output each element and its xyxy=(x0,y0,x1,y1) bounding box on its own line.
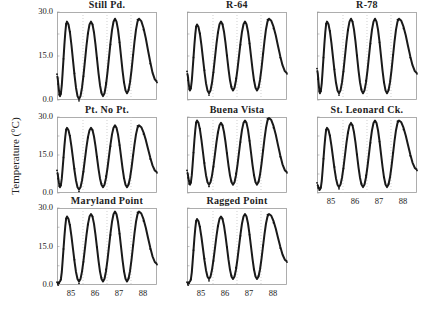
panel-title: R-64 xyxy=(187,0,287,10)
panel-title: Ragged Point xyxy=(187,195,287,206)
y-axis-label: Temperature (°C) xyxy=(9,101,21,211)
y-tick-label: 15.0 xyxy=(25,241,53,251)
y-tick-label: 0.0 xyxy=(25,279,53,289)
panel-title: Buena Vista xyxy=(187,104,287,115)
x-tick-label: 88 xyxy=(263,288,283,298)
panel-title: St. Leonard Ck. xyxy=(317,104,417,115)
x-tick-label: 86 xyxy=(345,196,365,206)
x-tick-label: 88 xyxy=(393,196,413,206)
temperature-plot xyxy=(57,208,157,285)
temperature-plot xyxy=(187,117,287,193)
y-tick-label: 15.0 xyxy=(25,50,53,60)
temperature-plot xyxy=(57,117,157,193)
y-tick-label: 30.0 xyxy=(25,111,53,121)
x-tick-label: 87 xyxy=(239,288,259,298)
panel-title: Pt. No Pt. xyxy=(57,104,157,115)
x-tick-label: 87 xyxy=(109,288,129,298)
panel-title: Maryland Point xyxy=(57,195,157,206)
x-tick-label: 85 xyxy=(321,196,341,206)
temperature-plot xyxy=(187,208,287,285)
x-tick-label: 85 xyxy=(61,288,81,298)
temperature-plot xyxy=(57,12,157,100)
x-tick-label: 87 xyxy=(369,196,389,206)
y-tick-label: 0.0 xyxy=(25,94,53,104)
temperature-plot xyxy=(317,12,417,100)
y-tick-label: 15.0 xyxy=(25,149,53,159)
panel-title: Still Pd. xyxy=(57,0,157,10)
y-tick-label: 30.0 xyxy=(25,6,53,16)
temperature-plot xyxy=(187,12,287,100)
temperature-plot xyxy=(317,117,417,193)
x-tick-label: 86 xyxy=(85,288,105,298)
x-tick-label: 86 xyxy=(215,288,235,298)
y-tick-label: 0.0 xyxy=(25,187,53,197)
x-tick-label: 88 xyxy=(133,288,153,298)
panel-title: R-78 xyxy=(317,0,417,10)
y-tick-label: 30.0 xyxy=(25,202,53,212)
x-tick-label: 85 xyxy=(191,288,211,298)
